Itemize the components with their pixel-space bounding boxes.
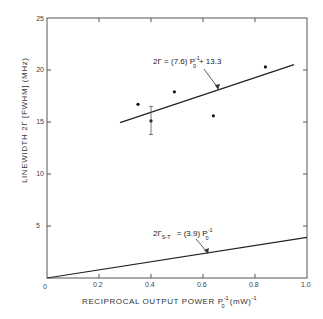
y-tick-15: 15 xyxy=(36,118,44,125)
y-tick-5: 5 xyxy=(36,222,40,229)
y-tick-10: 10 xyxy=(36,170,44,177)
data-point xyxy=(212,114,215,117)
data-points xyxy=(136,65,267,122)
schawlow-townes-line xyxy=(47,237,307,278)
x-tick-0.4: 0.4 xyxy=(145,281,155,288)
svg-text:2Γ = (7.6) P-10+ 13.3: 2Γ = (7.6) P-10+ 13.3 xyxy=(153,55,222,69)
svg-text:2ΓS-T= (3.9) P-10: 2ΓS-T= (3.9) P-10 xyxy=(153,227,213,241)
svg-text:RECIPROCAL OUTPUT POWER P-10(m: RECIPROCAL OUTPUT POWER P-10(mW)-1 xyxy=(82,295,256,309)
y-ticks xyxy=(47,70,307,226)
y-tick-labels: 5 10 15 20 25 xyxy=(36,15,44,229)
st-equation-annotation: 2ΓS-T= (3.9) P-10 xyxy=(153,227,213,254)
y-tick-25: 25 xyxy=(36,15,44,22)
fit-equation-annotation: 2Γ = (7.6) P-10+ 13.3 xyxy=(153,55,222,90)
y-tick-20: 20 xyxy=(36,66,44,73)
data-point xyxy=(173,90,176,93)
x-tick-0.2: 0.2 xyxy=(93,281,103,288)
x-axis-label: RECIPROCAL OUTPUT POWER P-10(mW)-1 xyxy=(82,295,256,309)
data-point xyxy=(264,65,267,68)
x-tick-0.6: 0.6 xyxy=(197,281,207,288)
data-point xyxy=(136,103,139,106)
chart-canvas: 0 0.2 0.4 0.6 0.8 1.0 5 10 15 20 25 2Γ =… xyxy=(0,0,323,319)
x-tick-labels: 0 0.2 0.4 0.6 0.8 1.0 xyxy=(43,281,311,290)
x-tick-0: 0 xyxy=(43,283,47,290)
x-tick-0.8: 0.8 xyxy=(249,281,259,288)
x-tick-1.0: 1.0 xyxy=(301,281,311,288)
y-axis-label: LINEWIDTH 2Γ [FWHM] (MHz) xyxy=(20,57,29,183)
